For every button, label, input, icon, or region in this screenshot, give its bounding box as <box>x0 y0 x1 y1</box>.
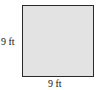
side-length-label: 9 ft <box>1 37 15 47</box>
square-shape <box>22 5 94 77</box>
base-length-label: 9 ft <box>48 79 62 89</box>
